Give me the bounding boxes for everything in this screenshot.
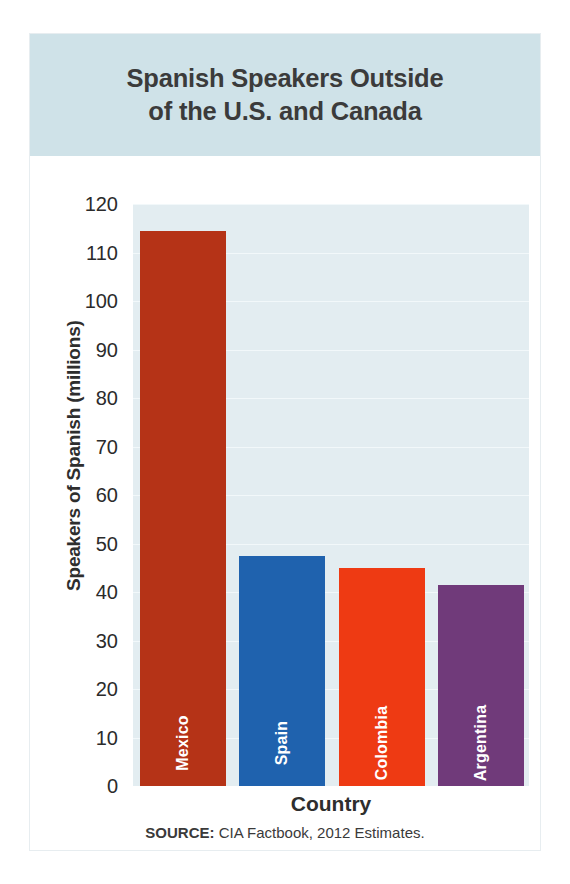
y-axis-tick-labels: 0102030405060708090100110120 (30, 204, 126, 786)
bar-mexico[interactable]: Mexico (140, 231, 226, 786)
bar-label-argentina: Argentina (472, 705, 490, 781)
chart-title: Spanish Speakers Outside of the U.S. and… (115, 62, 456, 127)
y-axis-tick-label: 90 (96, 338, 118, 361)
y-axis-tick-label: 40 (96, 581, 118, 604)
bar-label-mexico: Mexico (174, 715, 192, 770)
bar-spain[interactable]: Spain (239, 556, 325, 786)
y-axis-tick-label: 110 (86, 241, 118, 264)
bar-series: MexicoSpainColombiaArgentina (133, 204, 529, 786)
plot-area: MexicoSpainColombiaArgentina (133, 204, 529, 786)
y-axis-tick-label: 120 (85, 193, 118, 216)
source-prefix: SOURCE: (145, 824, 214, 841)
source-note: SOURCE: CIA Factbook, 2012 Estimates. (30, 824, 540, 841)
y-axis-tick-label: 20 (96, 678, 118, 701)
source-text: CIA Factbook, 2012 Estimates. (219, 824, 425, 841)
bar-label-colombia: Colombia (373, 706, 391, 781)
y-axis-tick-label: 70 (96, 435, 118, 458)
chart-title-line-1: Spanish Speakers Outside (127, 62, 444, 95)
y-axis-tick-label: 100 (85, 290, 118, 313)
y-axis-tick-label: 80 (96, 387, 118, 410)
bar-label-spain: Spain (273, 721, 291, 766)
y-axis-tick-label: 10 (96, 726, 118, 749)
bar-argentina[interactable]: Argentina (438, 585, 524, 786)
chart-body: Speakers of Spanish (millions) 010203040… (30, 156, 540, 852)
bar-colombia[interactable]: Colombia (339, 568, 425, 786)
chart-title-line-2: of the U.S. and Canada (127, 95, 444, 128)
y-axis-tick-label: 30 (96, 629, 118, 652)
y-axis-tick-label: 0 (107, 775, 118, 798)
y-axis-tick-label: 50 (96, 532, 118, 555)
chart-title-band: Spanish Speakers Outside of the U.S. and… (30, 34, 540, 156)
y-axis-tick-label: 60 (96, 484, 118, 507)
chart-figure: Spanish Speakers Outside of the U.S. and… (29, 33, 541, 851)
x-axis-title: Country (133, 792, 529, 816)
